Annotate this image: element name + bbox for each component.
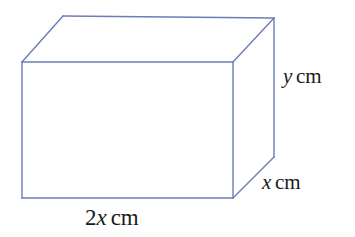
cuboid-drawing xyxy=(0,0,355,237)
front-face xyxy=(22,62,233,198)
width-label-coefficient: 2 xyxy=(85,205,97,230)
height-label: ycm xyxy=(283,66,322,87)
width-label-variable: x xyxy=(97,205,107,230)
depth-label-variable: x xyxy=(262,170,271,194)
height-label-variable: y xyxy=(283,64,292,88)
cuboid-edges xyxy=(22,16,274,198)
width-label-unit: cm xyxy=(111,205,139,230)
width-label: 2xcm xyxy=(85,206,139,229)
depth-label-unit: cm xyxy=(275,170,301,194)
height-label-unit: cm xyxy=(296,64,322,88)
top-face xyxy=(22,16,274,62)
cuboid-figure: ycm xcm 2xcm xyxy=(0,0,355,237)
depth-label: xcm xyxy=(262,172,301,193)
